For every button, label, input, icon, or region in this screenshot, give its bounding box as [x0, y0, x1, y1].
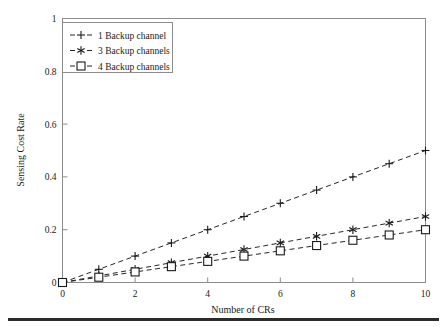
y-tick-label: 0 — [52, 278, 57, 288]
line-chart: 0246810 00.20.40.60.81 Number of CRs Sen… — [0, 0, 447, 327]
legend-label: 4 Backup channels — [98, 62, 170, 72]
y-tick-label: 1 — [52, 14, 57, 24]
x-tick-label: 4 — [205, 289, 210, 299]
y-axis-title: Sensing Cost Rate — [15, 113, 26, 187]
legend-marker-icon — [77, 62, 85, 70]
legend-label: 3 Backup channels — [98, 46, 170, 56]
y-axis-tick-labels: 00.20.40.60.81 — [45, 14, 57, 288]
x-axis-title: Number of CRs — [211, 304, 274, 315]
x-tick-label: 6 — [278, 289, 283, 299]
y-tick-label: 0.2 — [45, 225, 57, 235]
data-point-marker — [59, 279, 67, 287]
y-tick-label: 0.6 — [45, 120, 57, 130]
series-markers — [59, 147, 430, 287]
data-point-marker — [276, 199, 284, 207]
data-point-marker — [422, 147, 430, 155]
data-point-marker — [131, 268, 139, 276]
y-tick-label: 0.4 — [45, 172, 57, 182]
data-point-marker — [385, 231, 393, 239]
data-point-marker — [95, 273, 103, 281]
legend-label: 1 Backup channel — [98, 31, 166, 41]
bottom-divider-rule — [8, 318, 439, 321]
x-tick-label: 8 — [351, 289, 356, 299]
data-point-marker — [204, 257, 212, 265]
data-point-marker — [422, 226, 430, 234]
x-tick-label: 0 — [60, 289, 65, 299]
data-point-marker — [204, 226, 212, 234]
x-tick-label: 2 — [133, 289, 138, 299]
data-point-marker — [385, 160, 393, 168]
data-point-marker — [167, 239, 175, 247]
x-axis-ticks — [63, 278, 426, 283]
data-point-marker — [240, 213, 248, 221]
x-tick-label: 10 — [421, 289, 431, 299]
data-point-marker — [276, 247, 284, 255]
data-point-marker — [313, 242, 321, 250]
data-point-marker — [349, 236, 357, 244]
y-tick-label: 0.8 — [45, 67, 57, 77]
legend-item[interactable]: 4 Backup channels — [70, 62, 170, 72]
data-point-marker — [349, 173, 357, 181]
data-point-marker — [131, 252, 139, 260]
chart-legend: 1 Backup channel3 Backup channels4 Backu… — [63, 23, 173, 73]
figure-container: 0246810 00.20.40.60.81 Number of CRs Sen… — [0, 0, 447, 327]
data-point-marker — [167, 263, 175, 271]
data-point-marker — [240, 252, 248, 260]
x-axis-tick-labels: 0246810 — [60, 289, 430, 299]
data-point-marker — [313, 186, 321, 194]
